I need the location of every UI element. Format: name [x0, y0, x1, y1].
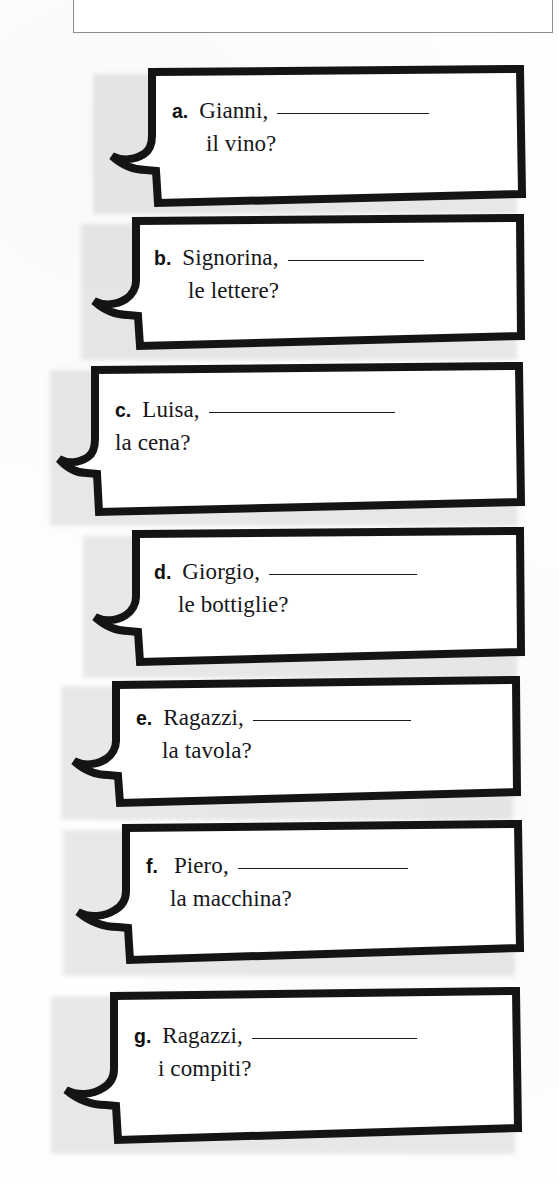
vocative-f: Piero,: [174, 854, 229, 877]
answer-blank-a[interactable]: [277, 113, 429, 114]
speech-bubble-b: b. Signorina, le lettere?: [88, 216, 524, 352]
speech-bubble-d: d. Giorgio, le bottiglie?: [90, 528, 524, 670]
item-label-b: b.: [154, 249, 171, 269]
item-label-a: a.: [172, 102, 188, 122]
item-label-f: f.: [146, 857, 158, 877]
speech-bubble-e: e. Ragazzi, la tavola?: [68, 678, 520, 812]
answer-blank-c[interactable]: [209, 412, 395, 413]
item-label-g: g.: [134, 1027, 151, 1047]
vocative-g: Ragazzi,: [162, 1024, 243, 1047]
bubble-text-f: f. Piero, la macchina?: [146, 854, 408, 910]
bubble-line-1: e. Ragazzi,: [136, 706, 411, 729]
item-label-c: c.: [115, 401, 131, 421]
bubble-line-1: b. Signorina,: [154, 246, 424, 269]
answer-blank-b[interactable]: [288, 260, 424, 261]
bubble-text-b: b. Signorina, le lettere?: [154, 246, 424, 302]
bubble-line-1: a. Gianni,: [172, 99, 429, 122]
bubble-line-2: il vino?: [206, 132, 429, 155]
bubble-line-1: d. Giorgio,: [154, 560, 417, 583]
object-phrase-a: il vino?: [206, 132, 276, 155]
object-phrase-b: le lettere?: [188, 279, 279, 302]
bubble-text-a: a. Gianni, il vino?: [172, 99, 429, 155]
item-label-e: e.: [136, 709, 152, 729]
answer-blank-g[interactable]: [252, 1038, 417, 1039]
bubble-line-1: c. Luisa,: [115, 398, 395, 421]
bubble-text-c: c. Luisa, la cena?: [115, 398, 395, 454]
bubble-text-g: g. Ragazzi, i compiti?: [134, 1024, 417, 1080]
bubble-line-1: g. Ragazzi,: [134, 1024, 417, 1047]
object-phrase-f: la macchina?: [170, 887, 292, 910]
object-phrase-d: le bottiglie?: [178, 593, 289, 616]
vocative-c: Luisa,: [142, 398, 199, 421]
item-label-d: d.: [154, 563, 171, 583]
bubble-line-2: la cena?: [115, 431, 395, 454]
speech-bubble-g: g. Ragazzi, i compiti?: [58, 988, 522, 1146]
answer-blank-f[interactable]: [238, 868, 408, 869]
bubble-line-2: i compiti?: [158, 1057, 417, 1080]
vocative-e: Ragazzi,: [163, 706, 244, 729]
bubble-text-d: d. Giorgio, le bottiglie?: [154, 560, 417, 616]
object-phrase-c: la cena?: [115, 431, 190, 454]
bubble-text-e: e. Ragazzi, la tavola?: [136, 706, 411, 762]
speech-bubble-c: c. Luisa, la cena?: [57, 362, 525, 518]
object-phrase-g: i compiti?: [158, 1057, 252, 1080]
answer-blank-d[interactable]: [269, 574, 417, 575]
exercise-page: a. Gianni, il vino? b. Signorina, le let…: [0, 0, 559, 1183]
bubble-line-2: la tavola?: [162, 739, 411, 762]
vocative-a: Gianni,: [199, 99, 268, 122]
answer-blank-e[interactable]: [253, 720, 411, 721]
vocative-d: Giorgio,: [182, 560, 260, 583]
vocative-b: Signorina,: [182, 246, 278, 269]
speech-bubble-f: f. Piero, la macchina?: [70, 822, 522, 968]
bubble-line-2: le lettere?: [188, 279, 424, 302]
bubble-line-1: f. Piero,: [146, 854, 408, 877]
instruction-box-cropped: [73, 0, 553, 33]
bubble-line-2: la macchina?: [170, 887, 408, 910]
speech-bubble-a: a. Gianni, il vino?: [100, 66, 524, 206]
object-phrase-e: la tavola?: [162, 739, 252, 762]
bubble-line-2: le bottiglie?: [178, 593, 417, 616]
